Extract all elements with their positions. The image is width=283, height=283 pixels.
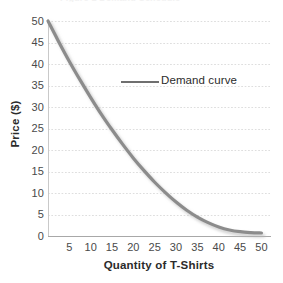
demand-curve-annotation-label: Demand curve	[161, 74, 237, 86]
x-axis-title: Quantity of T-Shirts	[48, 259, 270, 271]
demand-curve-figure: Figure 1 Demand Schedule 051015202530354…	[0, 0, 283, 283]
annotation-leader-line	[121, 81, 159, 82]
demand-curve-svg	[0, 0, 283, 283]
y-axis-title: Price ($)	[9, 89, 21, 159]
demand-curve-line	[48, 21, 261, 233]
